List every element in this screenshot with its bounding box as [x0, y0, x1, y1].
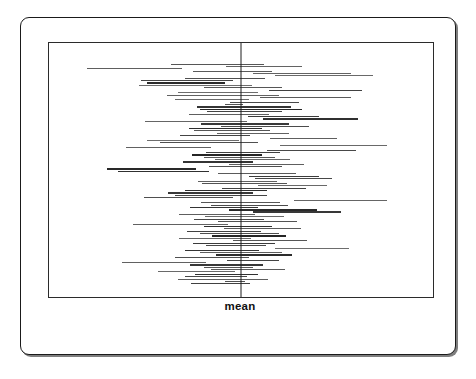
plot-frame-border	[48, 42, 434, 298]
mean-axis-label: mean	[0, 300, 476, 312]
mean-label-text: mean	[225, 300, 256, 312]
figure-root: mean	[0, 0, 476, 379]
interval-segments-group	[87, 64, 387, 284]
confidence-interval-plot	[49, 43, 433, 297]
